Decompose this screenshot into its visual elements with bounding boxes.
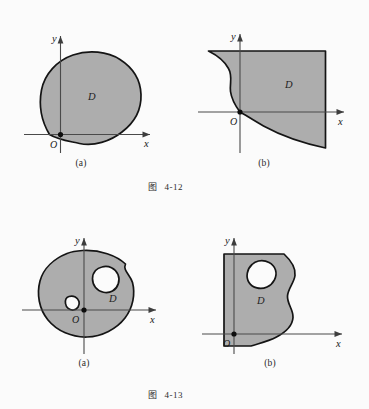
figure-4-13-sublabel-b: (b) [250,358,290,368]
y-axis-arrowhead [81,238,87,246]
region-label-D: D [87,91,96,102]
x-axis-label: x [149,314,155,325]
figure-4-12-caption-number: 4-12 [165,182,184,192]
region-shape-scurve [209,51,326,148]
x-axis-arrowhead [335,331,343,337]
y-axis-arrowhead [58,36,64,44]
region-label-D: D [284,79,293,90]
y-axis-arrowhead [231,238,237,246]
figure-4-12-panel-b-canvas: y x O D [192,22,352,157]
origin-label: O [50,139,57,150]
x-axis-label: x [143,138,149,149]
y-axis-label: y [74,235,80,246]
figure-4-13-caption-prefix: 图 [148,390,158,400]
figure-4-13-panel-a-canvas: y x O D [16,228,166,358]
x-axis-arrowhead [149,307,157,313]
origin-label: O [72,314,79,325]
y-axis-label: y [230,31,236,42]
figure-4-12-sublabel-a: (a) [61,158,101,168]
y-axis-label: y [51,33,57,44]
origin-label: O [223,338,230,349]
figure-4-13-panel-b: y x O D [196,228,352,358]
figure-4-12-panel-a: y x O D [16,22,166,157]
figure-4-13-panel-a: y x O D [16,228,166,358]
origin-dot [58,132,63,137]
origin-label: O [230,116,237,127]
origin-dot [237,109,242,114]
figure-4-13-panel-b-canvas: y x O D [196,228,352,358]
figure-4-12-panel-a-canvas: y x O D [16,22,166,157]
x-axis-arrowhead [337,109,345,115]
figure-4-12-caption: 图4-12 [148,180,183,193]
region-label-D: D [108,293,117,304]
x-axis-label: x [335,338,341,349]
region-label-D: D [256,295,265,306]
origin-dot [81,307,86,312]
x-axis-label: x [337,116,343,127]
x-axis-arrowhead [143,132,151,138]
figure-4-12-sublabel-b: (b) [244,158,284,168]
region-shape-blob-with-holes [38,250,133,337]
origin-dot [231,331,236,336]
figure-4-13-caption: 图4-13 [148,388,183,401]
figure-4-13-caption-number: 4-13 [165,390,184,400]
figure-4-12-panel-b: y x O D [192,22,352,157]
figure-4-13-sublabel-a: (a) [64,358,104,368]
figure-page: y x O D (a) y x O D (b) 图4-12 [0,0,369,409]
y-axis-arrowhead [237,34,243,42]
y-axis-label: y [224,235,230,246]
figure-4-12-caption-prefix: 图 [148,182,158,192]
